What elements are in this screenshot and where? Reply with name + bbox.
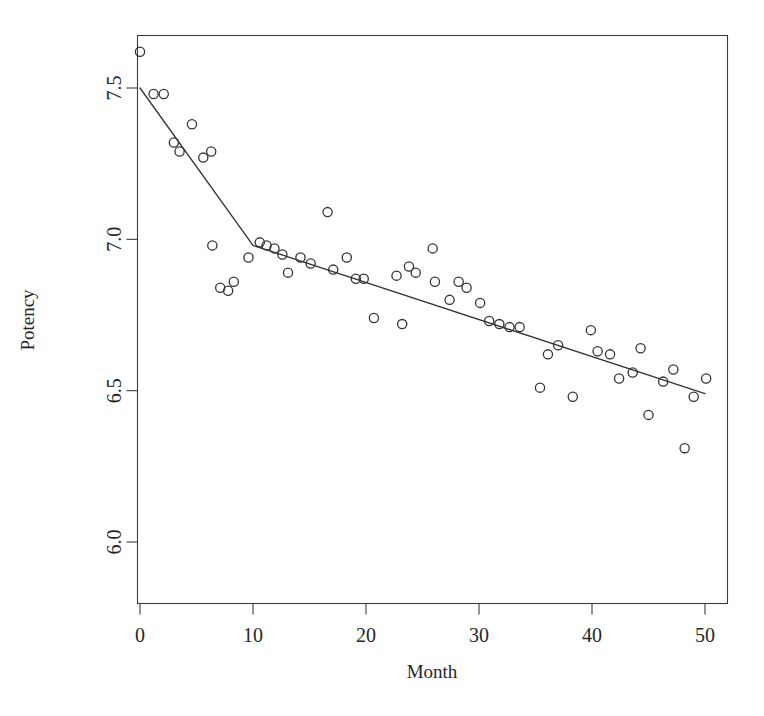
data-point bbox=[430, 277, 439, 286]
y-tick-label: 6.0 bbox=[103, 530, 125, 555]
data-point bbox=[515, 323, 524, 332]
data-point bbox=[586, 326, 595, 335]
data-point bbox=[159, 89, 168, 98]
x-tick-label: 40 bbox=[582, 624, 602, 646]
data-point bbox=[323, 207, 332, 216]
data-point bbox=[689, 392, 698, 401]
y-tick-label: 7.0 bbox=[103, 227, 125, 252]
data-points-layer bbox=[135, 47, 710, 453]
data-point bbox=[428, 244, 437, 253]
scatter-plot-figure: 01020304050 6.06.57.07.5 Month Potency bbox=[0, 0, 764, 716]
data-point bbox=[593, 347, 602, 356]
data-point bbox=[680, 444, 689, 453]
x-tick-label: 20 bbox=[356, 624, 376, 646]
data-point bbox=[244, 253, 253, 262]
y-tick-label: 7.5 bbox=[103, 76, 125, 101]
data-point bbox=[342, 253, 351, 262]
data-point bbox=[568, 392, 577, 401]
data-point bbox=[543, 350, 552, 359]
data-point bbox=[207, 147, 216, 156]
data-point bbox=[398, 319, 407, 328]
y-axis-title: Potency bbox=[17, 289, 38, 351]
x-tick-label: 10 bbox=[243, 624, 263, 646]
data-point bbox=[644, 410, 653, 419]
data-point bbox=[669, 365, 678, 374]
data-point bbox=[283, 268, 292, 277]
data-point bbox=[462, 283, 471, 292]
x-tick-label: 30 bbox=[469, 624, 489, 646]
data-point bbox=[445, 295, 454, 304]
data-point bbox=[476, 298, 485, 307]
data-point bbox=[636, 344, 645, 353]
plot-canvas: 01020304050 6.06.57.07.5 Month Potency bbox=[0, 0, 764, 716]
data-point bbox=[208, 241, 217, 250]
y-tick-label: 6.5 bbox=[103, 378, 125, 403]
y-axis-ticks bbox=[127, 88, 138, 542]
x-tick-label: 0 bbox=[135, 624, 145, 646]
data-point bbox=[369, 313, 378, 322]
data-point bbox=[229, 277, 238, 286]
data-point bbox=[392, 271, 401, 280]
x-tick-label: 50 bbox=[695, 624, 715, 646]
data-point bbox=[605, 350, 614, 359]
data-point bbox=[702, 374, 711, 383]
x-axis-title: Month bbox=[407, 661, 458, 682]
data-point bbox=[135, 47, 144, 56]
x-axis-tick-labels: 01020304050 bbox=[135, 624, 715, 646]
y-axis-tick-labels: 6.06.57.07.5 bbox=[103, 76, 125, 555]
data-point bbox=[454, 277, 463, 286]
data-point bbox=[411, 268, 420, 277]
regression-fit-line bbox=[140, 88, 705, 394]
x-axis-ticks bbox=[140, 604, 705, 615]
data-point bbox=[149, 89, 158, 98]
data-point bbox=[615, 374, 624, 383]
data-point bbox=[224, 286, 233, 295]
data-point bbox=[535, 383, 544, 392]
plot-frame bbox=[138, 36, 728, 604]
data-point bbox=[187, 120, 196, 129]
data-point bbox=[199, 153, 208, 162]
